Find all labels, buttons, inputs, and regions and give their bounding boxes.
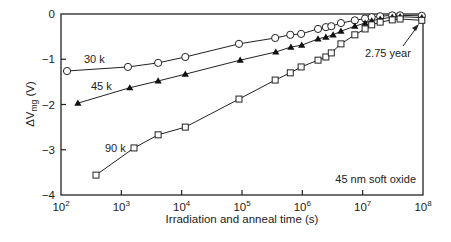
- x-tick-label: 106: [294, 199, 312, 213]
- series-label-30k: 30 k: [84, 53, 105, 65]
- y-tick-label: −4: [42, 189, 56, 201]
- circle-marker: [63, 67, 70, 74]
- circle-marker: [182, 53, 189, 60]
- circle-marker: [314, 25, 321, 32]
- square-marker: [369, 22, 375, 28]
- x-axis-title: Irradiation and anneal time (s): [166, 213, 319, 225]
- square-marker: [182, 124, 188, 130]
- square-marker: [362, 26, 368, 32]
- square-marker: [338, 41, 344, 47]
- y-tick-label: 0: [49, 8, 55, 20]
- square-marker: [236, 96, 242, 102]
- square-marker: [377, 19, 383, 25]
- square-marker: [93, 172, 99, 178]
- y-tick-label: −2: [42, 99, 55, 111]
- annotation-2-75-year: 2.75 year: [365, 47, 411, 59]
- x-tick-label: 104: [173, 199, 191, 213]
- square-marker: [397, 16, 403, 22]
- circle-marker: [337, 19, 344, 26]
- x-tick-label: 105: [233, 199, 251, 213]
- circle-marker: [155, 59, 162, 66]
- triangle-marker: [330, 31, 337, 37]
- square-marker: [315, 57, 321, 63]
- y-tick-label: −1: [42, 53, 55, 65]
- circle-marker: [287, 31, 294, 38]
- circle-marker: [124, 63, 131, 70]
- x-tick-label: 107: [354, 199, 372, 213]
- x-tick-label: 108: [414, 199, 432, 213]
- y-tick-label: −3: [42, 144, 55, 156]
- circle-marker: [328, 23, 335, 30]
- square-marker: [419, 17, 425, 23]
- x-tick-label: 102: [52, 199, 70, 213]
- series-label-45k: 45 k: [91, 80, 112, 92]
- x-tick-label: 103: [113, 199, 131, 213]
- y-axis-ticks: 0−1−2−3−4: [42, 8, 66, 201]
- square-marker: [328, 50, 334, 56]
- square-marker: [155, 132, 161, 138]
- square-marker: [298, 64, 304, 70]
- square-marker: [131, 145, 137, 151]
- annotation-arrow: [403, 24, 419, 46]
- square-marker: [352, 32, 358, 38]
- annotation-oxide: 45 nm soft oxide: [335, 173, 416, 185]
- circle-marker: [235, 40, 242, 47]
- series-label-90k: 90 k: [105, 142, 126, 154]
- chart: 102103104105106107108 0−1−2−3−4 Irradiat…: [0, 0, 451, 242]
- circle-marker: [298, 30, 305, 37]
- x-axis-ticks: 102103104105106107108: [52, 190, 432, 213]
- square-marker: [389, 17, 395, 23]
- y-axis-title: ΔVmg (V): [24, 81, 39, 127]
- square-marker: [287, 70, 293, 76]
- circle-marker: [272, 34, 279, 41]
- square-marker: [272, 77, 278, 83]
